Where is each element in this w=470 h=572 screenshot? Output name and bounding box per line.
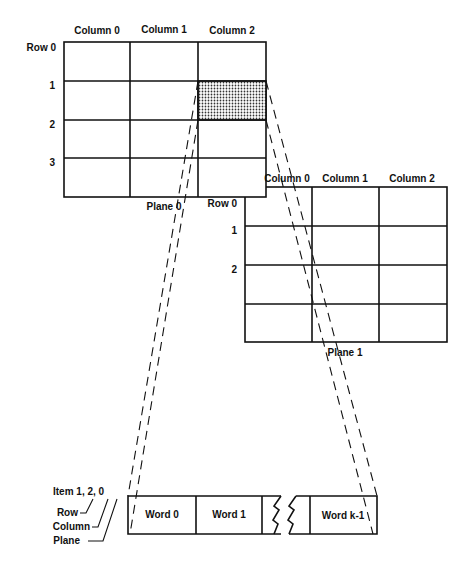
item-column-label: Column (53, 521, 90, 533)
plane1-column-2-header: Column 2 (389, 173, 435, 185)
plane0-row-0-label: Row 0 (27, 42, 56, 54)
item-row-label: Row (57, 507, 78, 519)
plane1-row-1-label: 1 (231, 225, 237, 237)
plane0-row-3-label: 3 (49, 157, 55, 169)
plane0-row-2-label: 2 (49, 119, 55, 131)
word-0-label: Word 0 (145, 509, 179, 521)
plane0-column-2-header: Column 2 (209, 25, 255, 37)
word-k-minus-1-label: Word k-1 (322, 510, 365, 522)
highlighted-cell (198, 81, 266, 120)
plane0-title: Plane 0 (146, 201, 181, 213)
word-1-label: Word 1 (212, 509, 246, 521)
break-right (288, 496, 296, 534)
plane1-column-0-header: Column 0 (264, 173, 310, 185)
plane-0-grid (64, 42, 266, 197)
item-leaders (80, 499, 117, 541)
item-label: Item 1, 2, 0 (53, 486, 104, 498)
plane-1-grid (245, 187, 447, 342)
plane0-row-1-label: 1 (49, 80, 55, 92)
plane1-row-2-label: 2 (231, 264, 237, 276)
item-plane-label: Plane (53, 535, 80, 547)
break-left (273, 496, 281, 534)
plane0-column-0-header: Column 0 (74, 25, 120, 37)
plane1-row-0-label: Row 0 (208, 198, 237, 210)
plane1-column-1-header: Column 1 (322, 173, 368, 185)
plane0-column-1-header: Column 1 (141, 24, 187, 36)
plane1-title: Plane 1 (327, 347, 362, 359)
